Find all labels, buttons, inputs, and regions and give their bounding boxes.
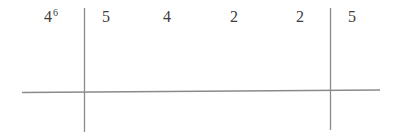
tableau-grid-lines [0,0,398,140]
coefficient-4: 2 [296,8,304,26]
divisor-power: 46 [44,8,58,28]
divisor-base: 4 [44,8,52,25]
division-tableau: 46 5 4 2 2 5 [0,0,398,140]
coefficient-3: 2 [230,8,238,26]
coefficient-1: 5 [102,8,110,26]
coefficient-2: 4 [163,8,171,26]
coefficient-5: 5 [348,8,356,26]
divisor-exponent: 6 [53,7,58,18]
horizontal-divider [22,90,380,93]
